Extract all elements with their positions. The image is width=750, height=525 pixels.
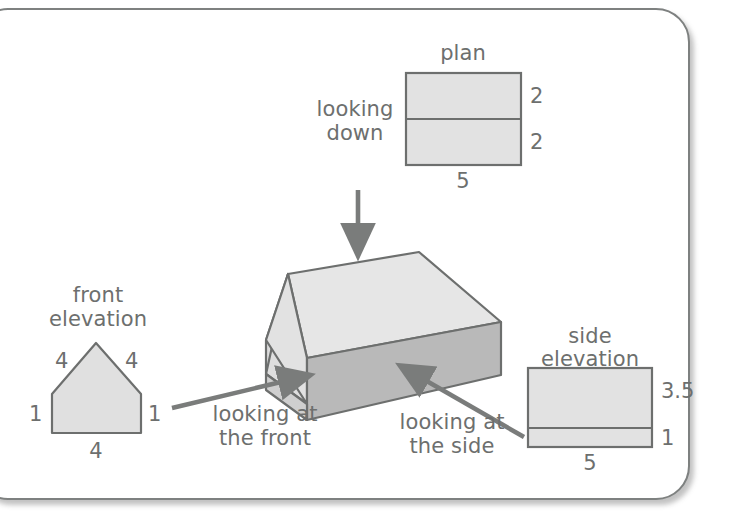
annotation-looking-side-line2: the side xyxy=(410,435,495,459)
plan-label-bottom: 5 xyxy=(456,171,469,192)
plan-label-top-right: 2 xyxy=(530,86,543,107)
side-elevation-title-line1: side xyxy=(568,325,611,349)
annotation-looking-front-line1: looking at xyxy=(213,403,318,427)
plan-view xyxy=(406,73,521,165)
front-elevation-label-wall-left: 1 xyxy=(29,404,42,425)
side-elevation-label-bottom: 5 xyxy=(583,453,596,474)
front-elevation-label-base: 4 xyxy=(89,441,102,462)
front-elevation-label-roof-right: 4 xyxy=(125,351,138,372)
annotation-looking-down-line2: down xyxy=(326,122,383,146)
side-elevation-rectangle xyxy=(528,368,652,447)
side-elevation-label-top-right: 3.5 xyxy=(661,381,694,402)
plan-label-bottom-right: 2 xyxy=(530,132,543,153)
diagram-canvas xyxy=(0,0,750,525)
side-elevation-label-bottom-right: 1 xyxy=(661,428,674,449)
front-elevation-title-line2: elevation xyxy=(49,308,147,332)
front-elevation-label-wall-right: 1 xyxy=(148,404,161,425)
annotation-looking-down-line1: looking xyxy=(317,98,394,122)
side-elevation-title-line2: elevation xyxy=(541,348,639,372)
front-elevation-label-roof-left: 4 xyxy=(55,351,68,372)
diagram-screenshot: plan 2 2 5 front elevation 4 4 1 1 4 sid… xyxy=(0,0,750,525)
plan-title: plan xyxy=(440,42,486,66)
front-elevation-title-line1: front xyxy=(73,284,123,308)
house-3d xyxy=(266,252,501,420)
annotation-looking-side-line1: looking at xyxy=(400,411,505,435)
annotation-looking-front-line2: the front xyxy=(219,427,311,451)
side-elevation-view xyxy=(528,368,652,447)
